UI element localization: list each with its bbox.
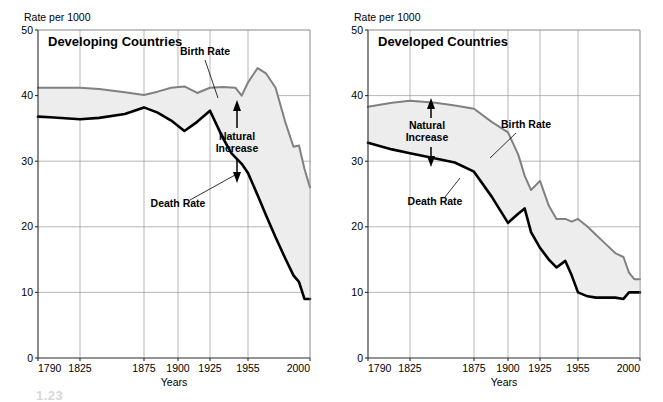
x-tick-label: 2000 <box>617 362 641 374</box>
annotation-line: Natural <box>409 119 445 131</box>
annotation-line: Increase <box>406 131 449 143</box>
partial-caption: 1.23 <box>36 388 63 402</box>
annotation-leader <box>190 175 235 200</box>
y-tick-label: 10 <box>351 286 363 298</box>
annotation-label-natural-increase: NaturalIncrease <box>216 130 259 154</box>
annotation-label-birth-rate: Birth Rate <box>180 45 230 57</box>
annotation-arrow-head <box>233 172 241 183</box>
annotation-label-birth-rate: Birth Rate <box>501 118 551 130</box>
chart-svg-developed: 010203040501790182518751900192519552000Y… <box>330 0 663 402</box>
annotation-label-natural-increase: NaturalIncrease <box>406 119 449 143</box>
y-tick-label: 0 <box>27 352 33 364</box>
y-tick-label: 0 <box>357 352 363 364</box>
chart-svg-developing: 010203040501790182518751900192519552000Y… <box>0 0 332 402</box>
x-tick-label: 1790 <box>368 362 392 374</box>
x-tick-label: 1875 <box>132 362 156 374</box>
x-tick-label: 1825 <box>398 362 422 374</box>
x-tick-label: 1825 <box>68 362 92 374</box>
plot-area-developed: 010203040501790182518751900192519552000Y… <box>351 11 640 388</box>
annotation-label-death-rate: Death Rate <box>151 197 206 209</box>
annotation-label-death-rate: Death Rate <box>408 195 463 207</box>
y-tick-label: 50 <box>21 24 33 36</box>
y-tick-label: 20 <box>351 220 363 232</box>
chart-panel-developing: 010203040501790182518751900192519552000Y… <box>0 0 332 402</box>
x-tick-label: 1875 <box>462 362 486 374</box>
x-tick-label: 1925 <box>198 362 222 374</box>
y-tick-label: 40 <box>21 89 33 101</box>
x-axis-title: Years <box>491 376 517 388</box>
x-tick-label: 1900 <box>496 362 520 374</box>
y-tick-label: 50 <box>351 24 363 36</box>
plot-area-developing: 010203040501790182518751900192519552000Y… <box>21 11 310 388</box>
panel-title: Developing Countries <box>48 34 182 49</box>
y-axis-title: Rate per 1000 <box>24 11 91 23</box>
natural-increase-area <box>38 68 310 299</box>
x-tick-label: 1955 <box>566 362 590 374</box>
annotation-line: Increase <box>216 142 259 154</box>
x-tick-label: 1955 <box>236 362 260 374</box>
figure-root: 010203040501790182518751900192519552000Y… <box>0 0 663 402</box>
x-tick-label: 1790 <box>38 362 62 374</box>
x-tick-label: 1900 <box>166 362 190 374</box>
y-tick-label: 30 <box>351 155 363 167</box>
x-tick-label: 2000 <box>287 362 311 374</box>
y-tick-label: 30 <box>21 155 33 167</box>
annotation-line: Natural <box>219 130 255 142</box>
x-tick-label: 1925 <box>528 362 552 374</box>
x-axis-title: Years <box>161 376 187 388</box>
y-axis-title: Rate per 1000 <box>354 11 421 23</box>
y-tick-label: 20 <box>21 220 33 232</box>
y-tick-label: 10 <box>21 286 33 298</box>
y-tick-label: 40 <box>351 89 363 101</box>
chart-panel-developed: 010203040501790182518751900192519552000Y… <box>330 0 663 402</box>
panel-title: Developed Countries <box>378 34 508 49</box>
